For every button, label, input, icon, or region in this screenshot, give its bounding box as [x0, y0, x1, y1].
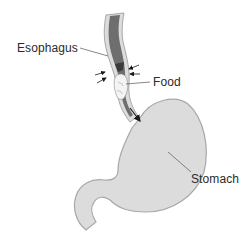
- stomach: [74, 99, 206, 230]
- diagram-canvas: [0, 0, 251, 237]
- stomach-body: [74, 99, 206, 230]
- arrow-right-upper: [129, 65, 139, 69]
- arrow-left-lower: [97, 78, 106, 83]
- food-bolus: [114, 74, 128, 99]
- digestion-diagram: Esophagus Food Stomach: [0, 0, 251, 237]
- leader-esophagus: [80, 48, 108, 56]
- label-esophagus: Esophagus: [17, 42, 78, 54]
- label-food: Food: [153, 76, 181, 88]
- label-stomach: Stomach: [191, 173, 239, 185]
- arrow-left-upper: [95, 72, 105, 75]
